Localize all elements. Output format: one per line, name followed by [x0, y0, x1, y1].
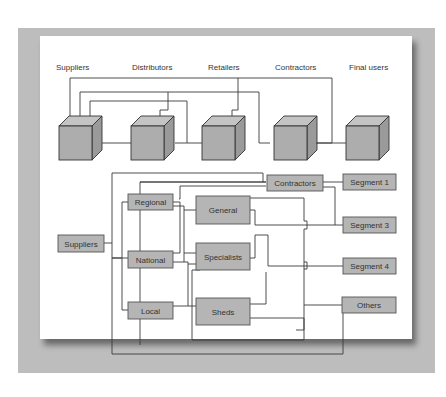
cube-suppliers — [59, 116, 102, 160]
label-distributors: Distributors — [132, 63, 172, 72]
svg-text:Suppliers: Suppliers — [64, 240, 97, 249]
cube-retailers — [202, 116, 245, 160]
svg-text:Segment 4: Segment 4 — [350, 262, 389, 271]
node-specialists: Specialists — [196, 243, 250, 270]
node-national: National — [128, 251, 173, 268]
svg-text:Others: Others — [357, 301, 381, 310]
node-others: Others — [342, 297, 396, 313]
node-general: General — [196, 196, 250, 224]
node-segment-1: Segment 1 — [343, 174, 396, 190]
svg-text:Regional: Regional — [135, 198, 167, 207]
node-sheds: Sheds — [196, 298, 250, 325]
cube-distributors — [131, 116, 174, 160]
node-suppliers: Suppliers — [58, 235, 104, 252]
node-local: Local — [128, 302, 173, 319]
svg-text:Sheds: Sheds — [212, 308, 235, 317]
label-suppliers: Suppliers — [56, 63, 89, 72]
svg-text:General: General — [209, 206, 238, 215]
cube-contractors — [274, 116, 317, 160]
supply-chain-diagram: Suppliers Distributors Retailers Contrac… — [0, 0, 446, 397]
svg-text:Local: Local — [141, 307, 160, 316]
node-regional: Regional — [128, 194, 173, 210]
svg-text:Specialists: Specialists — [204, 253, 242, 262]
node-segment-3: Segment 3 — [343, 217, 396, 233]
svg-text:Segment 1: Segment 1 — [350, 178, 389, 187]
svg-text:Segment 3: Segment 3 — [350, 221, 389, 230]
cube-final-users — [346, 116, 389, 160]
svg-text:National: National — [136, 256, 166, 265]
node-segment-4: Segment 4 — [343, 258, 396, 274]
label-retailers: Retailers — [208, 63, 240, 72]
label-contractors: Contractors — [275, 63, 316, 72]
label-final-users: Final users — [349, 63, 388, 72]
svg-text:Contractors: Contractors — [274, 179, 315, 188]
node-contractors: Contractors — [267, 175, 323, 191]
